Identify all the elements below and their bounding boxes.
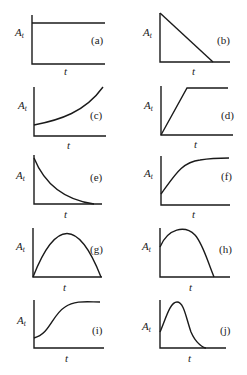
y-axis-label: At xyxy=(16,314,27,328)
y-axis-label: At xyxy=(142,26,153,40)
panel-g: At (g) t xyxy=(15,228,103,293)
y-axis-label: At xyxy=(15,240,26,254)
panel-j: At (j) t xyxy=(141,300,231,364)
panel-h: At (h) t xyxy=(141,228,232,293)
curve-symmetric-peak xyxy=(33,234,101,278)
x-axis-label: t xyxy=(189,281,193,293)
panel-tag: (h) xyxy=(219,243,232,256)
curve-linear-decrease xyxy=(160,13,213,62)
panel-tag: (e) xyxy=(90,171,103,184)
y-axis-label: At xyxy=(14,26,25,40)
x-axis-label: t xyxy=(63,281,67,293)
x-axis-label: t xyxy=(64,208,68,220)
curve-saturating-growth xyxy=(161,158,229,194)
panel-tag: (c) xyxy=(90,109,103,122)
panel-tag: (f) xyxy=(221,170,232,183)
curve-sigmoid xyxy=(34,302,100,338)
panel-tag: (i) xyxy=(92,324,103,337)
panel-tag: (j) xyxy=(220,324,231,337)
y-axis-label: At xyxy=(143,99,154,113)
panel-f: At (f) t xyxy=(143,156,232,220)
y-axis-label: At xyxy=(15,169,26,183)
panel-c: At (c) t xyxy=(17,87,106,151)
figure-grid: At (a) t At (b) t At (c) t At (d) t At (… xyxy=(0,0,247,375)
panel-e: At (e) t xyxy=(15,155,103,220)
x-axis-label: t xyxy=(192,65,196,77)
curve-rise-fall xyxy=(160,229,214,277)
x-axis-label: t xyxy=(64,65,68,77)
panel-tag: (a) xyxy=(91,34,104,47)
panel-d: At (d) t xyxy=(143,86,234,150)
x-axis-label: t xyxy=(192,208,196,220)
panel-a: At (a) t xyxy=(14,15,105,77)
curve-ramp-plateau xyxy=(161,88,228,135)
y-axis-label: At xyxy=(141,320,152,334)
x-axis-label: t xyxy=(67,139,71,151)
y-axis-label: At xyxy=(17,99,28,113)
x-axis-label: t xyxy=(188,352,192,364)
curve-exponential-decay xyxy=(34,158,94,204)
x-axis-label: t xyxy=(194,138,198,150)
x-axis-label: t xyxy=(65,352,69,364)
panel-i: At (i) t xyxy=(16,300,104,364)
panel-tag: (g) xyxy=(90,243,103,256)
curve-skewed-peak xyxy=(160,302,206,348)
y-axis-label: At xyxy=(143,167,154,181)
panel-b: At (b) t xyxy=(142,13,230,77)
panel-tag: (b) xyxy=(217,34,230,47)
y-axis-label: At xyxy=(141,240,152,254)
panel-tag: (d) xyxy=(221,109,234,122)
